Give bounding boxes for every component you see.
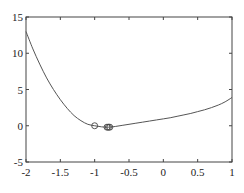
y-axis: -5051015 — [12, 11, 232, 168]
x-tick-label: 0.5 — [191, 166, 205, 178]
x-tick-label: -1 — [90, 166, 99, 178]
x-axis: -2-1.5-1-0.500.51 — [21, 17, 234, 178]
y-tick-label: 10 — [12, 47, 24, 59]
x-tick-label: 1 — [229, 166, 235, 178]
x-tick-label: -0.5 — [120, 166, 138, 178]
y-tick-label: 5 — [18, 84, 24, 96]
x-tick-label: 0 — [161, 166, 167, 178]
series-line-curve — [26, 32, 232, 128]
x-tick-label: -1.5 — [52, 166, 70, 178]
chart: -2-1.5-1-0.500.51 -5051015 — [0, 0, 244, 193]
y-tick-label: -5 — [14, 156, 24, 168]
y-tick-label: 0 — [18, 120, 24, 132]
plot-frame — [26, 17, 232, 162]
y-tick-label: 15 — [12, 11, 24, 23]
